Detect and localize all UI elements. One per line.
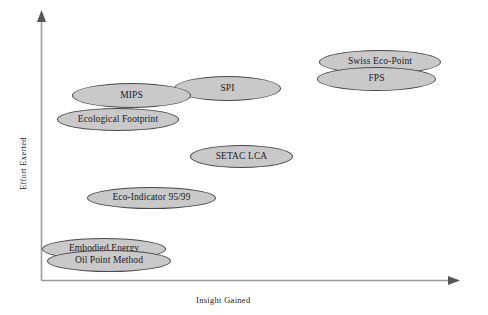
- bubble-label: Swiss Eco-Point: [348, 57, 412, 67]
- x-axis-title-text: Insight Gained: [196, 295, 250, 305]
- bubble-label: Ecological Footprint: [78, 115, 158, 125]
- x-axis-title: Insight Gained: [196, 295, 250, 305]
- bubble-label: Eco-Indicator 95/99: [112, 193, 190, 203]
- bubble-label: SETAC LCA: [216, 152, 268, 162]
- bubble-eco-indicator[interactable]: Eco-Indicator 95/99: [87, 187, 216, 209]
- y-axis-title: Effort Exerted: [18, 137, 28, 190]
- bubble-label: FPS: [368, 74, 384, 84]
- chart-canvas: Effort Exerted Insight Gained Swiss Eco-…: [0, 0, 488, 315]
- bubble-oil-point-method[interactable]: Oil Point Method: [47, 250, 171, 272]
- y-axis-title-text: Effort Exerted: [18, 137, 28, 190]
- bubble-label: Oil Point Method: [75, 256, 143, 266]
- bubble-fps[interactable]: FPS: [317, 67, 436, 91]
- bubble-ecological-footprint[interactable]: Ecological Footprint: [57, 108, 179, 131]
- x-axis: [42, 276, 461, 285]
- bubble-label: MIPS: [120, 91, 143, 101]
- bubble-mips[interactable]: MIPS: [72, 83, 191, 108]
- bubble-label: SPI: [220, 84, 234, 94]
- bubble-setac-lca[interactable]: SETAC LCA: [190, 145, 293, 168]
- y-axis: [37, 10, 46, 281]
